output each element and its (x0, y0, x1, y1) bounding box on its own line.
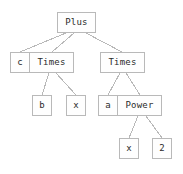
tree-node-plus[interactable]: Plus (57, 12, 96, 33)
tree-edge-power-to-x2 (129, 116, 138, 138)
tree-node-label: Power (125, 101, 153, 110)
tree-node-label: a (105, 101, 111, 110)
tree-node-b[interactable]: b (32, 95, 52, 116)
tree-node-a[interactable]: a (98, 95, 118, 116)
tree-edge-times2-to-power (126, 73, 140, 95)
tree-node-label: b (39, 101, 45, 110)
tree-node-label: 2 (159, 144, 165, 153)
tree-node-label: Times (108, 58, 136, 67)
tree-edge-times2-to-a (108, 73, 120, 95)
tree-edge-times1-to-x1 (56, 73, 76, 95)
tree-node-label: Times (37, 58, 65, 67)
tree-node-label: Plus (65, 18, 87, 27)
tree-node-x2[interactable]: x (119, 138, 139, 159)
tree-edge-plus-to-times1 (52, 33, 74, 52)
tree-node-label: c (17, 58, 23, 67)
tree-node-two[interactable]: 2 (152, 138, 172, 159)
tree-node-times2[interactable]: Times (100, 52, 145, 73)
tree-node-label: x (126, 144, 132, 153)
tree-node-times1[interactable]: Times (29, 52, 74, 73)
tree-edge-power-to-two (146, 116, 162, 138)
tree-node-x1[interactable]: x (66, 95, 86, 116)
tree-edge-plus-to-c (20, 33, 66, 52)
expression-tree-diagram: PluscTimesTimesbxaPowerx2 (0, 0, 183, 174)
tree-node-c[interactable]: c (10, 52, 30, 73)
tree-node-power[interactable]: Power (117, 95, 162, 116)
tree-edge-plus-to-times2 (86, 33, 122, 52)
tree-node-label: x (73, 101, 79, 110)
tree-edge-times1-to-b (42, 73, 49, 95)
